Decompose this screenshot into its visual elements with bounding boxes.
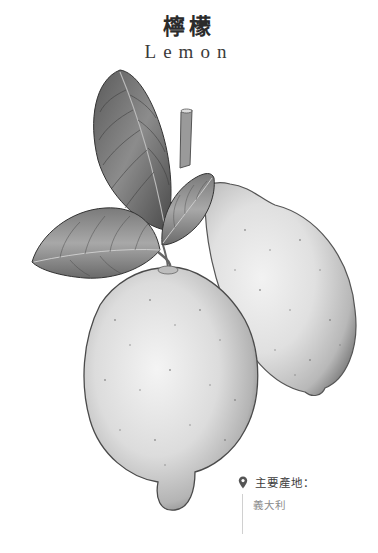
front-lemon	[84, 266, 258, 510]
leaf-left	[32, 208, 160, 278]
origin-info: 主要產地： 義大利	[238, 474, 315, 534]
origin-label: 主要產地：	[255, 474, 315, 490]
leaf-top	[94, 70, 171, 230]
page-title-chinese: 檸檬	[0, 8, 378, 40]
lemon-illustration	[0, 60, 378, 553]
origin-divider: 義大利	[242, 494, 315, 534]
origin-value: 義大利	[253, 499, 286, 511]
location-pin-icon	[238, 476, 248, 489]
stem-icon	[180, 109, 192, 168]
